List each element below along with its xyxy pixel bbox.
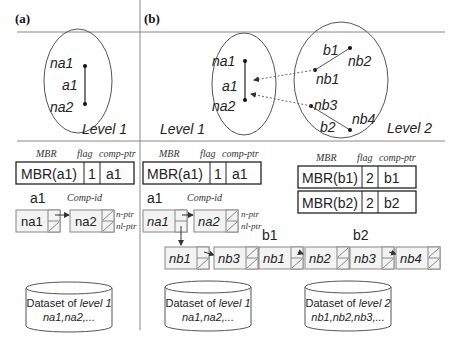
node-point (348, 46, 352, 50)
header-mbr: MBR (315, 152, 337, 163)
parent-link-arrow (251, 94, 311, 106)
node-name: na1 (21, 214, 43, 229)
dataset-cylinder: Dataset of level 1 na1,na2,... (26, 282, 112, 332)
dataset-contents: na1,na2,... (43, 311, 95, 323)
index-header-b1: MBR flag comp-ptr (158, 148, 259, 159)
index-entry-b2: MBR(b2) 2 b2 (298, 191, 416, 213)
node-cell: nb4 (396, 247, 440, 269)
node-label-nb2: nb2 (348, 53, 372, 69)
entry-flag: 2 (366, 170, 374, 186)
component-title-a1: a1 (30, 190, 46, 206)
dataset-contents: nb1,nb2,nb3,... (311, 311, 384, 323)
node-cell: nb1 (259, 247, 303, 269)
component-title-b2: b2 (353, 227, 369, 243)
index-entry-b1: MBR(b1) 2 b1 (298, 166, 416, 188)
node-name: nb2 (309, 251, 331, 266)
index-entry-a1: MBR(a1) 1 a1 (16, 162, 134, 184)
object-label-a1: a1 (62, 77, 78, 93)
node-cell: na1 (143, 210, 187, 232)
entry-mbr: MBR(b2) (302, 195, 358, 211)
node-point (243, 59, 247, 63)
panel-label-a: (a) (15, 11, 30, 26)
node-name: nb1 (263, 251, 285, 266)
header-comp-ptr: comp-ptr (222, 148, 259, 159)
node-name: nb3 (218, 251, 240, 266)
entry-flag: 2 (366, 195, 374, 211)
nl-ptr-label: nl-ptr (241, 221, 262, 231)
node-cell: na2 (194, 210, 238, 232)
header-flag: flag (77, 148, 93, 159)
node-label-na2: na2 (50, 99, 74, 115)
object-ellipse (44, 29, 112, 133)
node-label-na1: na1 (50, 55, 73, 71)
entry-comp: b2 (384, 195, 400, 211)
node-point (83, 102, 87, 106)
parent-link-arrow (254, 70, 315, 80)
comp-id-label: Comp-id (187, 192, 223, 203)
node-cell: nb3 (214, 247, 258, 269)
dataset-title: Dataset of level 1 (166, 297, 251, 309)
entry-mbr: MBR(a1) (21, 166, 77, 182)
node-point (348, 128, 352, 132)
entry-comp: a1 (106, 166, 122, 182)
header-flag: flag (357, 152, 373, 163)
entry-comp: b1 (384, 170, 400, 186)
node-name: na1 (147, 214, 169, 229)
index-header-b2: MBR flag comp-ptr (315, 152, 416, 163)
node-label-nb4: nb4 (352, 111, 376, 127)
object-label-b2: b2 (320, 119, 336, 135)
dataset-title: Dataset of level 1 (27, 297, 112, 309)
object-label-b1: b1 (323, 42, 339, 58)
component-title-a1: a1 (147, 190, 163, 206)
header-comp-ptr: comp-ptr (99, 148, 136, 159)
header-mbr: MBR (158, 148, 180, 159)
header-comp-ptr: comp-ptr (379, 152, 416, 163)
node-name: na2 (198, 214, 220, 229)
node-name: na2 (75, 214, 97, 229)
node-label-na1: na1 (212, 53, 235, 69)
header-mbr: MBR (35, 148, 57, 159)
node-point (83, 64, 87, 68)
panel-label-b: (b) (144, 11, 160, 26)
dataset-cylinder: Dataset of level 2 nb1,nb2,nb3,... (305, 281, 391, 331)
dataset-contents: na1,na2,... (182, 311, 234, 323)
node-name: nb3 (354, 251, 376, 266)
node-cell: na2 (70, 210, 114, 232)
index-entry-a1: MBR(a1) 1 a1 (143, 162, 261, 184)
level2-objects: b1 nb2 nb1 nb3 nb4 b2 (294, 22, 388, 138)
entry-flag: 1 (88, 166, 96, 182)
entry-comp: a1 (232, 166, 248, 182)
node-cell: na1 (16, 210, 60, 232)
level-label: Level 1 (160, 121, 205, 137)
node-point (243, 98, 247, 102)
node-name: nb4 (400, 251, 422, 266)
entry-flag: 1 (214, 166, 222, 182)
dataset-title: Dataset of level 2 (306, 297, 391, 309)
node-label-nb1: nb1 (316, 71, 339, 87)
level-label: Level 1 (82, 121, 127, 137)
level1-object-b: na1 a1 na2 (212, 33, 276, 135)
component-title-b1: b1 (262, 227, 278, 243)
n-ptr-label: n-ptr (241, 209, 259, 219)
node-label-na2: na2 (212, 98, 236, 114)
level1-object-a: na1 a1 na2 (44, 29, 112, 133)
header-flag: flag (200, 148, 216, 159)
comp-id-label: Comp-id (67, 192, 103, 203)
dataset-cylinder: Dataset of level 1 na1,na2,... (165, 281, 251, 331)
diagram-canvas: (a) (b) na1 a1 na2 Level 1 na1 a1 na2 Le… (0, 0, 451, 345)
object-label-a1: a1 (222, 78, 238, 94)
node-name: nb1 (169, 251, 191, 266)
node-cell: nb1 (165, 247, 209, 269)
node-cell: nb3 (350, 247, 394, 269)
nl-ptr-label: nl-ptr (116, 221, 137, 231)
index-header-a: MBR flag comp-ptr (35, 148, 136, 159)
entry-mbr: MBR(b1) (302, 170, 358, 186)
entry-mbr: MBR(a1) (147, 166, 203, 182)
level-label: Level 2 (387, 120, 432, 136)
n-ptr-label: n-ptr (116, 209, 134, 219)
node-cell: nb2 (305, 247, 349, 269)
node-label-nb3: nb3 (314, 97, 338, 113)
